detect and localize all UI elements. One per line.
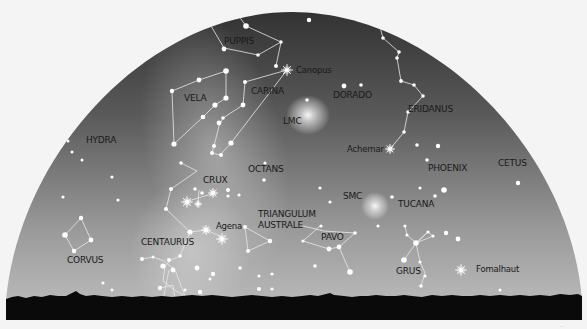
achernar-star-icon <box>385 144 395 154</box>
label-smc: SMC <box>343 191 362 201</box>
agena-star-icon <box>201 225 211 235</box>
label-cetus: CETUS <box>498 158 527 168</box>
label-grus: GRUS <box>396 266 421 276</box>
label-eridanus: ERIDANUS <box>408 104 453 114</box>
gacrux-star-icon <box>194 200 202 208</box>
mimosa-star-icon <box>208 188 218 198</box>
label-centaurus: CENTAURUS <box>141 237 194 247</box>
southern-sky-star-chart: PUPPIS VELA CARINA DORADO ERIDANUS HYDRA… <box>0 0 587 329</box>
smc-cloud <box>361 192 389 220</box>
label-crux: CRUX <box>203 175 228 185</box>
label-dorado: DORADO <box>333 90 372 100</box>
label-carina: CARINA <box>251 86 285 96</box>
label-lmc: LMC <box>283 116 301 126</box>
label-hydra: HYDRA <box>86 135 117 145</box>
label-puppis: PUPPIS <box>224 36 255 46</box>
label-triangulum: TRIANGULUM <box>257 209 316 219</box>
label-tucana: TUCANA <box>397 199 435 209</box>
label-canopus: Canopus <box>296 65 332 75</box>
label-vela: VELA <box>184 93 207 103</box>
label-australe: AUSTRALE <box>258 220 304 230</box>
label-pavo: PAVO <box>321 232 344 242</box>
credit-mark: ... <box>560 323 564 328</box>
label-fomalhaut: Fomalhaut <box>476 264 520 274</box>
label-phoenix: PHOENIX <box>428 163 467 173</box>
label-octans: OCTANS <box>248 164 284 174</box>
label-agena: Agena <box>216 221 242 231</box>
label-corvus: CORVUS <box>67 255 104 265</box>
label-achernar: Achernar <box>347 144 384 154</box>
